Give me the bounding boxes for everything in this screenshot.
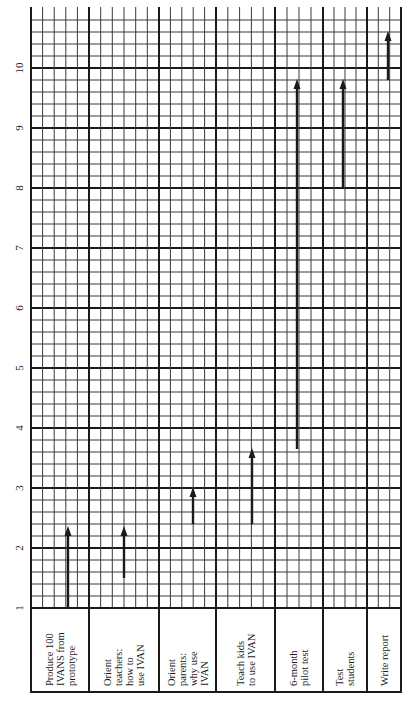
task-label-boxes: Produce 100IVANS fromprototypeOrientteac… [31, 608, 401, 692]
task-label: students [345, 652, 356, 686]
task-label: Test [334, 669, 345, 686]
task-label: pilot test [299, 649, 310, 686]
task-label: why use [188, 651, 199, 686]
task-label: Orient [166, 659, 177, 686]
month-tick-label: 9 [13, 125, 25, 131]
task-label: use IVAN [135, 644, 146, 686]
task-label: IVANS from [55, 632, 66, 686]
month-tick-label: 10 [13, 62, 25, 74]
task-label: parents: [177, 653, 188, 686]
month-tick-label: 4 [13, 425, 25, 431]
month-tick-label: 6 [13, 305, 25, 311]
task-label: 6-month [288, 650, 299, 686]
month-axis-labels: 12345678910 [13, 62, 25, 611]
task-label: Teach kids [235, 641, 246, 686]
month-tick-label: 1 [13, 605, 25, 611]
month-tick-label: 8 [13, 185, 25, 191]
task-label: Produce 100 [44, 633, 55, 686]
task-label: how to [124, 657, 135, 686]
grid [31, 7, 401, 608]
arrowhead-icon [249, 448, 256, 458]
arrowhead-icon [121, 526, 128, 536]
month-tick-label: 2 [13, 545, 25, 551]
task-label: IVAN [199, 661, 210, 686]
month-tick-label: 7 [13, 245, 25, 251]
task-label: Orient [102, 659, 113, 686]
task-label: Write report [379, 635, 390, 686]
task-label: to use IVAN [246, 633, 257, 686]
month-tick-label: 5 [13, 365, 25, 371]
task-label: teachers: [113, 649, 124, 686]
gantt-chart: 12345678910 Produce 100IVANS fromprototy… [0, 0, 413, 711]
task-label: prototype [66, 645, 77, 686]
month-tick-label: 3 [13, 485, 25, 491]
